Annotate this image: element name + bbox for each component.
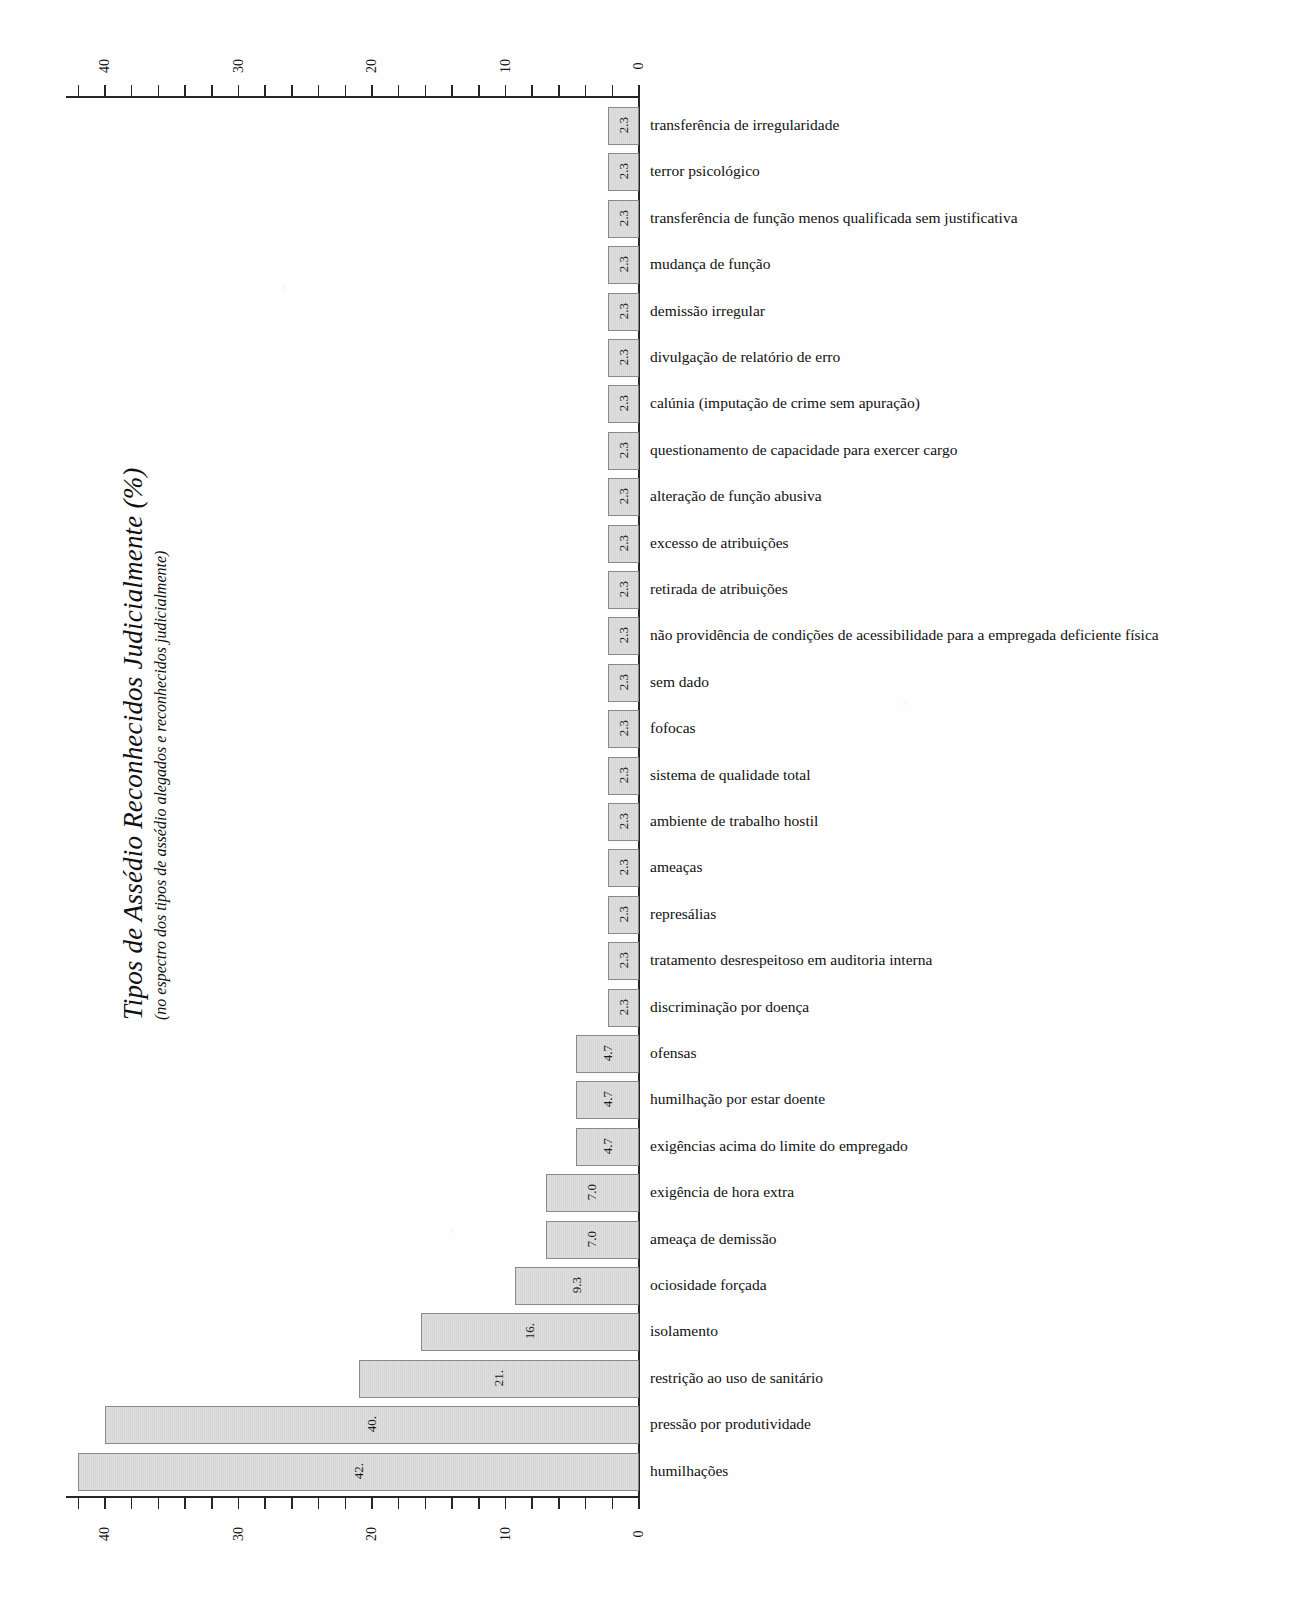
category-label: divulgação de relatório de erro — [650, 348, 840, 366]
bar-value-label: 42. — [351, 1454, 367, 1488]
axis-tick-label: 10 — [498, 50, 514, 82]
category-label: sem dado — [650, 673, 709, 691]
axis-tick — [184, 1497, 186, 1509]
axis-tick-label: 20 — [364, 1518, 380, 1550]
axis-tick — [158, 85, 160, 97]
category-label: ociosidade forçada — [650, 1276, 767, 1294]
category-label: ameaça de demissão — [650, 1230, 777, 1248]
category-label: terror psicológico — [650, 162, 760, 180]
bar-value-label: 16. — [522, 1314, 538, 1348]
axis-tick — [131, 1497, 133, 1509]
category-label: exigência de hora extra — [650, 1183, 794, 1201]
axis-tick — [371, 85, 373, 97]
axis-tick — [531, 1497, 533, 1509]
bar-value-label: 2.3 — [616, 386, 632, 420]
bar-value-label: 2.3 — [616, 247, 632, 281]
axis-tick — [104, 85, 106, 97]
plot-area: 403020100 403020100 2.3transferência de … — [0, 0, 1293, 1599]
bar-value-label: 2.3 — [616, 943, 632, 977]
axis-tick — [318, 1497, 320, 1509]
category-label: ofensas — [650, 1044, 697, 1062]
top-axis-rule — [66, 96, 640, 98]
axis-tick — [585, 85, 587, 97]
axis-tick — [585, 1497, 587, 1509]
axis-tick — [371, 1497, 373, 1509]
bar-value-label: 2.3 — [616, 433, 632, 467]
axis-tick — [345, 1497, 347, 1509]
bar-value-label: 40. — [364, 1407, 380, 1441]
bar-value-label: 2.3 — [616, 711, 632, 745]
bar-value-label: 7.0 — [584, 1222, 600, 1256]
category-label: humilhação por estar doente — [650, 1090, 825, 1108]
axis-tick — [78, 85, 80, 97]
category-label: não providência de condições de acessibi… — [650, 626, 1159, 644]
axis-tick-label: 20 — [364, 50, 380, 82]
axis-tick — [558, 85, 560, 97]
axis-tick — [451, 85, 453, 97]
axis-tick-label: 10 — [498, 1518, 514, 1550]
bar-value-label: 2.3 — [616, 526, 632, 560]
bar-value-label: 4.7 — [600, 1129, 616, 1163]
axis-tick — [211, 85, 213, 97]
category-label: ameaças — [650, 858, 703, 876]
axis-tick-label: 0 — [631, 50, 647, 82]
axis-tick — [131, 85, 133, 97]
bar-value-label: 2.3 — [616, 804, 632, 838]
category-label: retirada de atribuições — [650, 580, 788, 598]
axis-tick — [398, 85, 400, 97]
bar-value-label: 2.3 — [616, 294, 632, 328]
category-label: exigências acima do limite do empregado — [650, 1137, 908, 1155]
category-label: discriminação por doença — [650, 998, 809, 1016]
bar-value-label: 2.3 — [616, 897, 632, 931]
bar-value-label: 2.3 — [616, 201, 632, 235]
axis-tick — [612, 85, 614, 97]
category-label: fofocas — [650, 719, 696, 737]
axis-tick-label: 30 — [231, 50, 247, 82]
category-label: ambiente de trabalho hostil — [650, 812, 818, 830]
axis-tick — [531, 85, 533, 97]
axis-tick-label: 0 — [631, 1518, 647, 1550]
bar-value-label: 2.3 — [616, 479, 632, 513]
bar-value-label: 7.0 — [584, 1175, 600, 1209]
axis-tick — [184, 85, 186, 97]
bottom-axis-rule — [66, 1496, 640, 1498]
category-label: questionamento de capacidade para exerce… — [650, 441, 957, 459]
category-label: represálias — [650, 905, 716, 923]
category-label: tratamento desrespeitoso em auditoria in… — [650, 951, 932, 969]
axis-tick — [238, 1497, 240, 1509]
axis-tick — [345, 85, 347, 97]
category-label: sistema de qualidade total — [650, 766, 811, 784]
bar-value-label: 2.3 — [616, 618, 632, 652]
figure-container: Tipos de Assédio Reconhecidos Judicialme… — [0, 0, 1293, 1599]
category-label: alteração de função abusiva — [650, 487, 822, 505]
axis-tick-label: 30 — [231, 1518, 247, 1550]
axis-tick — [612, 1497, 614, 1509]
category-label: humilhações — [650, 1462, 728, 1480]
category-label: transferência de irregularidade — [650, 116, 839, 134]
bar-value-label: 2.3 — [616, 572, 632, 606]
bar-value-label: 2.3 — [616, 990, 632, 1024]
bar-value-label: 2.3 — [616, 340, 632, 374]
axis-tick — [78, 1497, 80, 1509]
axis-tick — [238, 85, 240, 97]
category-label: restrição ao uso de sanitário — [650, 1369, 823, 1387]
category-label: calúnia (imputação de crime sem apuração… — [650, 394, 920, 412]
category-label: transferência de função menos qualificad… — [650, 209, 1018, 227]
axis-tick — [291, 1497, 293, 1509]
category-label: demissão irregular — [650, 302, 765, 320]
bar-value-label: 9.3 — [569, 1268, 585, 1302]
axis-tick-label: 40 — [97, 1518, 113, 1550]
category-label: excesso de atribuições — [650, 534, 789, 552]
axis-tick — [398, 1497, 400, 1509]
axis-tick — [425, 85, 427, 97]
bar-value-label: 2.3 — [616, 850, 632, 884]
axis-tick — [505, 1497, 507, 1509]
axis-tick — [264, 1497, 266, 1509]
axis-tick — [264, 85, 266, 97]
axis-tick — [478, 85, 480, 97]
category-label: isolamento — [650, 1322, 718, 1340]
bar-value-label: 2.3 — [616, 154, 632, 188]
axis-tick — [425, 1497, 427, 1509]
category-label: pressão por produtividade — [650, 1415, 811, 1433]
axis-tick — [638, 1497, 640, 1509]
